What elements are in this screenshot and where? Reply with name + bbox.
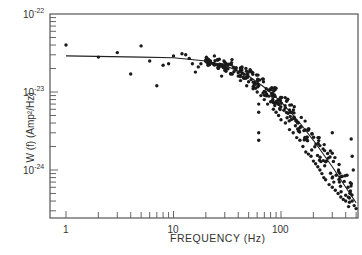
plot-frame [50, 14, 358, 218]
data-points [64, 43, 358, 210]
y-axis-title: W (f) (Amp²/Hz) [25, 58, 36, 198]
fit-line [66, 56, 356, 203]
x-axis-title: FREQUENCY (Hz) [170, 232, 265, 244]
x-tick-label: 1 [63, 224, 69, 235]
x-axis-ticks [66, 211, 356, 218]
y-axis-ticks [50, 18, 58, 211]
spectral-density-chart [0, 0, 362, 255]
y-tick-label: 10-22 [23, 8, 44, 20]
x-tick-label: 100 [272, 224, 289, 235]
